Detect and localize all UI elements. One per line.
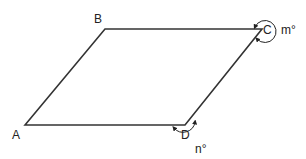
vertex-label-b: B [94, 12, 102, 26]
diagram-canvas: A B C D m° n° [0, 0, 306, 159]
parallelogram-shape [25, 29, 262, 125]
angle-label-n: n° [195, 142, 207, 156]
vertex-label-a: A [12, 128, 20, 142]
angle-label-m: m° [281, 23, 296, 37]
vertex-label-d: D [181, 128, 190, 142]
parallelogram-diagram: A B C D m° n° [0, 0, 306, 159]
vertex-label-c: C [263, 23, 272, 37]
